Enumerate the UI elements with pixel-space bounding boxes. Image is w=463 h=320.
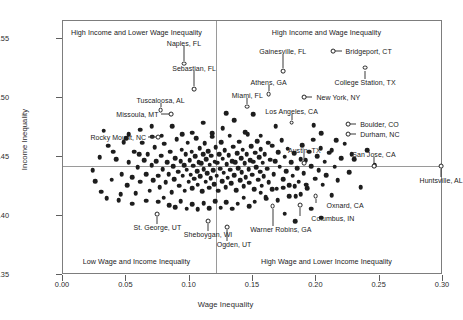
data-point[interactable]: [114, 157, 119, 162]
data-point[interactable]: [116, 198, 121, 203]
highlighted-data-point[interactable]: [158, 108, 163, 113]
data-point[interactable]: [247, 181, 252, 186]
data-point[interactable]: [144, 198, 149, 203]
highlighted-data-point[interactable]: [302, 95, 307, 100]
data-point[interactable]: [270, 187, 275, 192]
data-point[interactable]: [246, 167, 251, 172]
data-point[interactable]: [297, 179, 302, 184]
data-point[interactable]: [200, 189, 205, 194]
data-point[interactable]: [223, 148, 228, 153]
highlighted-data-point[interactable]: [363, 65, 368, 70]
data-point[interactable]: [130, 201, 135, 206]
data-point[interactable]: [179, 199, 184, 204]
data-point[interactable]: [358, 185, 363, 190]
data-point[interactable]: [255, 139, 260, 144]
data-point[interactable]: [213, 145, 218, 150]
highlighted-data-point[interactable]: [313, 193, 318, 198]
data-point[interactable]: [232, 118, 237, 123]
data-point[interactable]: [191, 163, 196, 168]
data-point[interactable]: [298, 192, 303, 197]
data-point[interactable]: [190, 130, 195, 135]
data-point[interactable]: [223, 185, 228, 190]
highlighted-data-point[interactable]: [346, 132, 351, 137]
data-point[interactable]: [190, 202, 195, 207]
data-point[interactable]: [216, 188, 221, 193]
highlighted-data-point[interactable]: [266, 92, 271, 97]
data-point[interactable]: [258, 133, 263, 138]
data-point[interactable]: [198, 174, 203, 179]
data-point[interactable]: [171, 164, 176, 169]
data-point[interactable]: [336, 178, 341, 183]
data-point[interactable]: [309, 164, 314, 169]
data-point[interactable]: [265, 166, 270, 171]
highlighted-data-point[interactable]: [302, 160, 307, 165]
data-point[interactable]: [266, 140, 271, 145]
data-point[interactable]: [211, 168, 216, 173]
highlighted-data-point[interactable]: [206, 219, 211, 224]
data-point[interactable]: [230, 207, 235, 212]
data-point[interactable]: [224, 111, 229, 116]
data-point[interactable]: [101, 129, 106, 134]
data-point[interactable]: [275, 198, 280, 203]
data-point[interactable]: [201, 201, 206, 206]
highlighted-data-point[interactable]: [155, 135, 160, 140]
data-point[interactable]: [276, 150, 281, 155]
data-point[interactable]: [224, 162, 229, 167]
data-point[interactable]: [226, 153, 231, 158]
data-point[interactable]: [287, 183, 292, 188]
data-point[interactable]: [231, 145, 236, 150]
data-point[interactable]: [162, 142, 167, 147]
data-point[interactable]: [289, 160, 294, 165]
data-point[interactable]: [228, 168, 233, 173]
data-point[interactable]: [168, 149, 173, 154]
data-point[interactable]: [189, 149, 194, 154]
data-point[interactable]: [259, 147, 264, 152]
data-point[interactable]: [281, 177, 286, 182]
data-point[interactable]: [221, 156, 226, 161]
data-point[interactable]: [243, 130, 248, 135]
data-point[interactable]: [244, 152, 249, 157]
data-point[interactable]: [138, 179, 143, 184]
data-point[interactable]: [173, 156, 178, 161]
data-point[interactable]: [167, 203, 172, 208]
data-point[interactable]: [172, 177, 177, 182]
data-point[interactable]: [252, 187, 257, 192]
data-point[interactable]: [185, 168, 190, 173]
data-point[interactable]: [225, 175, 230, 180]
data-point[interactable]: [207, 185, 212, 190]
highlighted-data-point[interactable]: [297, 203, 302, 208]
data-point[interactable]: [347, 170, 352, 175]
data-point[interactable]: [317, 168, 322, 173]
data-point[interactable]: [261, 174, 266, 179]
data-point[interactable]: [106, 143, 111, 148]
data-point[interactable]: [170, 124, 175, 129]
data-point[interactable]: [174, 137, 179, 142]
data-point[interactable]: [173, 205, 178, 210]
data-point[interactable]: [332, 165, 337, 170]
data-point[interactable]: [161, 167, 166, 172]
data-point[interactable]: [109, 178, 114, 183]
data-point[interactable]: [164, 180, 169, 185]
data-point[interactable]: [185, 140, 190, 145]
data-point[interactable]: [130, 175, 135, 180]
data-point[interactable]: [235, 151, 240, 156]
data-point[interactable]: [282, 211, 287, 216]
data-point[interactable]: [293, 219, 298, 224]
data-point[interactable]: [207, 206, 212, 211]
data-point[interactable]: [253, 199, 258, 204]
highlighted-data-point[interactable]: [169, 112, 174, 117]
data-point[interactable]: [267, 180, 272, 185]
data-point[interactable]: [204, 157, 209, 162]
data-point[interactable]: [194, 136, 199, 141]
data-point[interactable]: [240, 170, 245, 175]
data-point[interactable]: [334, 138, 339, 143]
data-point[interactable]: [186, 179, 191, 184]
data-point[interactable]: [192, 176, 197, 181]
data-point[interactable]: [180, 147, 185, 152]
data-point[interactable]: [241, 195, 246, 200]
data-point[interactable]: [166, 172, 171, 177]
data-point[interactable]: [210, 131, 215, 136]
data-point[interactable]: [118, 192, 123, 197]
data-point[interactable]: [212, 182, 217, 187]
data-point[interactable]: [239, 156, 244, 161]
